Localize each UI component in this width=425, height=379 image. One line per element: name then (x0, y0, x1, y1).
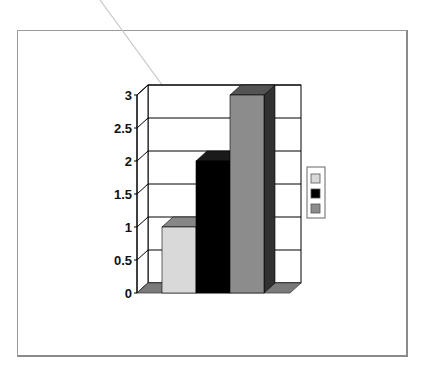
y-tick-label: 2 (125, 154, 132, 169)
y-tick-label: 2.5 (114, 121, 132, 136)
legend (307, 167, 325, 218)
y-tick-label: 1.5 (114, 187, 132, 202)
legend-swatch-1 (311, 174, 320, 183)
y-tick-label: 0 (125, 286, 132, 301)
legend-swatch-2 (311, 189, 320, 198)
y-tick-label: 3 (125, 88, 132, 103)
bar-chart: 00.511.522.53 (0, 0, 425, 379)
y-tick-label: 0.5 (114, 253, 132, 268)
legend-swatch-3 (311, 204, 320, 213)
y-tick-label: 1 (125, 220, 132, 235)
y-axis: 00.511.522.53 (114, 88, 137, 301)
bar-3 (230, 85, 275, 293)
